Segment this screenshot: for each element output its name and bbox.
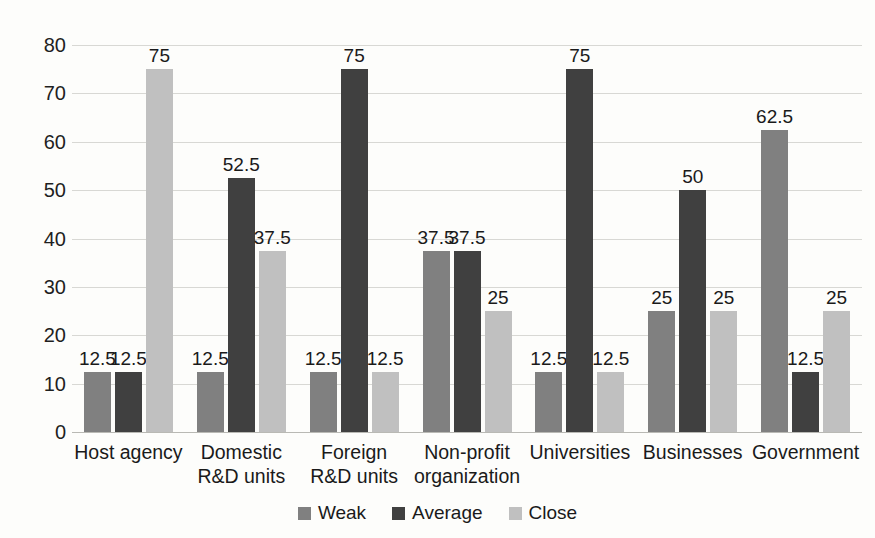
bar-value-label: 75 <box>344 46 365 66</box>
bar[interactable]: 37.5 <box>259 251 286 432</box>
bar-value-label: 25 <box>651 288 672 308</box>
y-axis-tick-label: 10 <box>20 374 66 394</box>
x-axis-category-label: Foreign R&D units <box>298 440 411 488</box>
bar[interactable]: 37.5 <box>423 251 450 432</box>
legend-swatch-icon <box>298 507 311 520</box>
bar-value-label: 12.5 <box>592 349 629 369</box>
bar-slot: 37.5 <box>259 45 286 432</box>
bar-slot: 75 <box>146 45 173 432</box>
legend-item[interactable]: Average <box>392 503 482 523</box>
bar[interactable]: 25 <box>710 311 737 432</box>
x-axis-category-label: Businesses <box>636 440 749 488</box>
legend-item[interactable]: Weak <box>298 503 366 523</box>
legend-label: Close <box>529 503 578 523</box>
bar-group: 12.552.537.5 <box>185 45 298 432</box>
bar-value-label: 25 <box>826 288 847 308</box>
bar[interactable]: 12.5 <box>310 372 337 432</box>
bar-value-label: 25 <box>713 288 734 308</box>
bar-slot: 12.5 <box>597 45 624 432</box>
y-axis: 80706050403020100 <box>10 45 66 432</box>
y-axis-tick-label: 50 <box>20 180 66 200</box>
legend-label: Weak <box>318 503 366 523</box>
bar-value-label: 12.5 <box>530 349 567 369</box>
bar-slot: 12.5 <box>535 45 562 432</box>
bar-slot: 37.5 <box>454 45 481 432</box>
bar[interactable]: 62.5 <box>761 130 788 432</box>
chart-legend: WeakAverageClose <box>0 503 875 523</box>
bar-slot: 12.5 <box>115 45 142 432</box>
bar[interactable]: 75 <box>341 69 368 432</box>
bar-group: 12.57512.5 <box>298 45 411 432</box>
bar[interactable]: 12.5 <box>115 372 142 432</box>
bar-groups: 12.512.57512.552.537.512.57512.537.537.5… <box>72 45 862 432</box>
bar-group: 12.512.575 <box>72 45 185 432</box>
y-axis-tick-label: 70 <box>20 83 66 103</box>
x-axis-category-label: Host agency <box>72 440 185 488</box>
bar-value-label: 37.5 <box>254 228 291 248</box>
bar-value-label: 12.5 <box>110 349 147 369</box>
bar-slot: 12.5 <box>84 45 111 432</box>
bar-slot: 37.5 <box>423 45 450 432</box>
bar-slot: 25 <box>648 45 675 432</box>
bar[interactable]: 25 <box>823 311 850 432</box>
y-axis-tick-label: 80 <box>20 35 66 55</box>
y-axis-tick-label: 0 <box>20 422 66 442</box>
bar-group: 37.537.525 <box>411 45 524 432</box>
axis-baseline <box>72 432 862 433</box>
bar[interactable]: 52.5 <box>228 178 255 432</box>
y-axis-tick-label: 20 <box>20 325 66 345</box>
bar-slot: 75 <box>566 45 593 432</box>
bar-slot: 75 <box>341 45 368 432</box>
bar[interactable]: 75 <box>146 69 173 432</box>
bar[interactable]: 37.5 <box>454 251 481 432</box>
bar-value-label: 62.5 <box>756 107 793 127</box>
bar-group: 12.57512.5 <box>523 45 636 432</box>
bar-value-label: 25 <box>487 288 508 308</box>
legend-item[interactable]: Close <box>509 503 578 523</box>
bar-chart: 80706050403020100 12.512.57512.552.537.5… <box>0 0 875 538</box>
bar-slot: 25 <box>710 45 737 432</box>
bar[interactable]: 12.5 <box>372 372 399 432</box>
x-axis-category-label: Universities <box>523 440 636 488</box>
bar-slot: 25 <box>485 45 512 432</box>
bar-slot: 12.5 <box>792 45 819 432</box>
bar[interactable]: 12.5 <box>597 372 624 432</box>
x-axis-category-label: Non-profit organization <box>411 440 524 488</box>
bar-slot: 12.5 <box>372 45 399 432</box>
bar[interactable]: 12.5 <box>792 372 819 432</box>
y-axis-tick-label: 30 <box>20 277 66 297</box>
bar[interactable]: 75 <box>566 69 593 432</box>
bar-value-label: 50 <box>682 167 703 187</box>
bar-slot: 12.5 <box>197 45 224 432</box>
legend-swatch-icon <box>509 507 522 520</box>
x-axis: Host agencyDomestic R&D unitsForeign R&D… <box>72 440 862 488</box>
bar[interactable]: 12.5 <box>84 372 111 432</box>
bar-value-label: 12.5 <box>192 349 229 369</box>
bar[interactable]: 12.5 <box>197 372 224 432</box>
bar-slot: 25 <box>823 45 850 432</box>
bar-slot: 12.5 <box>310 45 337 432</box>
bar-group: 62.512.525 <box>749 45 862 432</box>
bar-slot: 50 <box>679 45 706 432</box>
bar-value-label: 52.5 <box>223 155 260 175</box>
bar[interactable]: 50 <box>679 190 706 432</box>
bar[interactable]: 25 <box>648 311 675 432</box>
bar[interactable]: 12.5 <box>535 372 562 432</box>
bar-value-label: 12.5 <box>305 349 342 369</box>
bar-value-label: 75 <box>149 46 170 66</box>
legend-label: Average <box>412 503 482 523</box>
x-axis-category-label: Government <box>749 440 862 488</box>
y-axis-tick-label: 60 <box>20 132 66 152</box>
bar-slot: 52.5 <box>228 45 255 432</box>
bar-value-label: 37.5 <box>449 228 486 248</box>
bar-slot: 62.5 <box>761 45 788 432</box>
bar-value-label: 12.5 <box>367 349 404 369</box>
bar-value-label: 75 <box>569 46 590 66</box>
bar-value-label: 12.5 <box>787 349 824 369</box>
bar[interactable]: 25 <box>485 311 512 432</box>
x-axis-category-label: Domestic R&D units <box>185 440 298 488</box>
y-axis-tick-label: 40 <box>20 229 66 249</box>
legend-swatch-icon <box>392 507 405 520</box>
bar-group: 255025 <box>636 45 749 432</box>
